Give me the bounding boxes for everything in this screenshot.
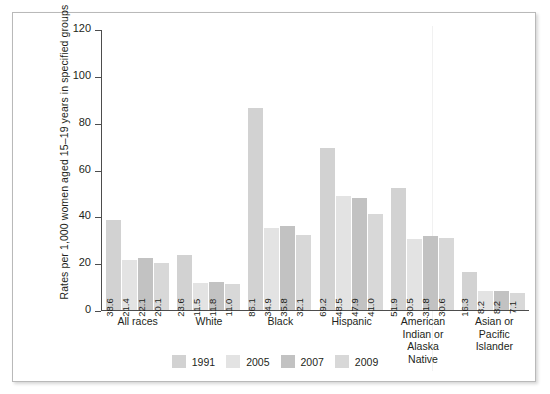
y-axis-title: Rates per 1,000 women aged 15–19 years i…: [58, 35, 70, 300]
bar-value-label: 23.6: [175, 298, 185, 317]
bar-value-label: 8.2: [492, 300, 502, 313]
bar-group: 38.621.422.120.1: [102, 30, 173, 310]
x-axis-label-line: All races: [102, 315, 173, 328]
legend-label: 2005: [246, 356, 269, 368]
bar: 41.0: [368, 214, 383, 310]
legend-label: 1991: [192, 356, 215, 368]
bar-value-label: 34.9: [262, 298, 272, 317]
legend-swatch: [172, 355, 186, 368]
bar: 51.9: [391, 188, 406, 310]
y-axis-tick: 40: [95, 217, 101, 218]
legend-label: 2009: [355, 356, 378, 368]
bar-value-label: 86.1: [246, 298, 256, 317]
bar-value-label: 11.8: [207, 298, 217, 316]
x-axis-label-line: Alaska: [387, 340, 458, 353]
bar-value-label: 7.1: [508, 300, 518, 313]
x-axis-label-line: Pacific: [459, 328, 530, 341]
bar-value-label: 31.8: [421, 298, 431, 317]
x-axis-label-line: American: [387, 315, 458, 328]
x-axis-label-line: Islander: [459, 340, 530, 353]
legend-swatch: [226, 355, 240, 368]
bar: 20.1: [154, 263, 169, 310]
chart-legend: 1991200520072009: [13, 355, 537, 368]
bar-group: 51.930.531.830.6: [387, 30, 458, 310]
y-axis-tick-label: 100: [73, 69, 91, 81]
legend-swatch: [335, 355, 349, 368]
bar-value-label: 16.3: [460, 298, 470, 317]
bar-group: 16.38.28.27.1: [458, 30, 529, 310]
legend-item[interactable]: 1991: [172, 355, 215, 368]
legend-item[interactable]: 2007: [281, 355, 324, 368]
figure-frame: Rates per 1,000 women aged 15–19 years i…: [12, 12, 536, 382]
bar: 86.1: [248, 108, 263, 310]
bar: 38.6: [106, 220, 121, 310]
bar-value-label: 11.5: [191, 298, 201, 316]
bar-value-label: 41.0: [366, 298, 376, 317]
bar-value-label: 20.1: [152, 298, 162, 317]
legend-swatch: [281, 355, 295, 368]
bar-group: 86.134.935.832.1: [244, 30, 315, 310]
y-axis-tick: 20: [95, 264, 101, 265]
y-axis-tick: 80: [95, 124, 101, 125]
y-axis-tick-label: 60: [79, 163, 91, 175]
legend-item[interactable]: 2009: [335, 355, 378, 368]
bar-group: 23.611.511.811.0: [173, 30, 244, 310]
bar-value-label: 11.0: [223, 298, 233, 316]
bar-value-label: 51.9: [389, 298, 399, 317]
x-axis-label-line: White: [173, 315, 244, 328]
bar-value-label: 8.2: [476, 300, 486, 313]
bar: 7.1: [510, 293, 525, 310]
x-axis-label-line: Asian or: [459, 315, 530, 328]
y-axis-tick-label: 0: [85, 303, 91, 315]
bar: 47.9: [352, 198, 367, 310]
bar-groups: 38.621.422.120.123.611.511.811.086.134.9…: [102, 30, 529, 310]
bar-value-label: 47.9: [350, 298, 360, 317]
bar-value-label: 35.8: [278, 298, 288, 317]
bar-value-label: 30.5: [405, 298, 415, 317]
bar-value-label: 38.6: [104, 298, 114, 317]
x-axis-label-line: Hispanic: [316, 315, 387, 328]
bar: 11.0: [225, 284, 240, 310]
bar-value-label: 21.4: [120, 298, 130, 317]
bar-value-label: 48.5: [334, 298, 344, 317]
y-axis-tick-label: 40: [79, 209, 91, 221]
legend-label: 2007: [301, 356, 324, 368]
bar: 32.1: [296, 235, 311, 310]
bar: 48.5: [336, 196, 351, 310]
legend-item[interactable]: 2005: [226, 355, 269, 368]
x-axis-label-line: Indian or: [387, 328, 458, 341]
bar-value-label: 69.2: [318, 298, 328, 317]
bar-value-label: 30.6: [437, 298, 447, 317]
bar-group: 69.248.547.941.0: [316, 30, 387, 310]
bar-value-label: 32.1: [294, 298, 304, 317]
y-axis-tick: 100: [95, 77, 101, 78]
bar: 69.2: [320, 148, 335, 310]
plot-area: 020406080100120 38.621.422.120.123.611.5…: [101, 30, 529, 311]
y-axis-tick-label: 20: [79, 256, 91, 268]
x-axis-label-line: Black: [245, 315, 316, 328]
bar: 30.6: [439, 238, 454, 310]
y-axis-tick: 0: [95, 311, 101, 312]
y-axis-tick-label: 80: [79, 116, 91, 128]
y-axis-tick: 120: [95, 30, 101, 31]
y-axis-tick-label: 120: [73, 22, 91, 34]
bar-value-label: 22.1: [136, 298, 146, 317]
y-axis-tick: 60: [95, 171, 101, 172]
